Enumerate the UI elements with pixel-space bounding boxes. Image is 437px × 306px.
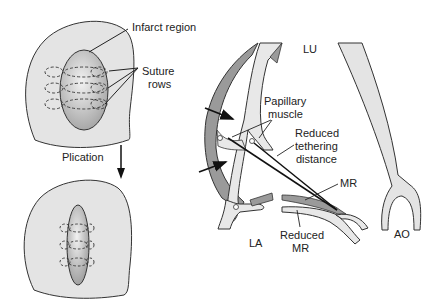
label-plication: Plication bbox=[62, 151, 104, 164]
label-suture-rows-1: Suture bbox=[142, 65, 174, 78]
label-reduced-mr-2: MR bbox=[292, 242, 309, 255]
ventricle-after-plication bbox=[24, 180, 131, 298]
label-mr: MR bbox=[340, 177, 357, 190]
label-reduced-tethering-1: Reduced bbox=[295, 127, 339, 140]
label-lu: LU bbox=[303, 43, 317, 56]
label-suture-rows-2: rows bbox=[148, 78, 171, 91]
label-ao: AO bbox=[394, 228, 410, 241]
label-reduced-tethering-2: tethering bbox=[295, 140, 338, 153]
label-infarct-region: Infarct region bbox=[132, 21, 196, 34]
infarct-region bbox=[60, 50, 108, 130]
label-papillary-1: Papillary bbox=[264, 95, 306, 108]
label-papillary-2: muscle bbox=[268, 108, 303, 121]
aorta bbox=[338, 43, 421, 230]
plication-arrow bbox=[117, 145, 125, 179]
ventricle-before-plication bbox=[26, 21, 138, 147]
label-reduced-mr-1: Reduced bbox=[280, 229, 324, 242]
label-la: LA bbox=[249, 237, 262, 250]
label-reduced-tethering-3: distance bbox=[296, 153, 337, 166]
lv-cross-section bbox=[205, 43, 368, 244]
